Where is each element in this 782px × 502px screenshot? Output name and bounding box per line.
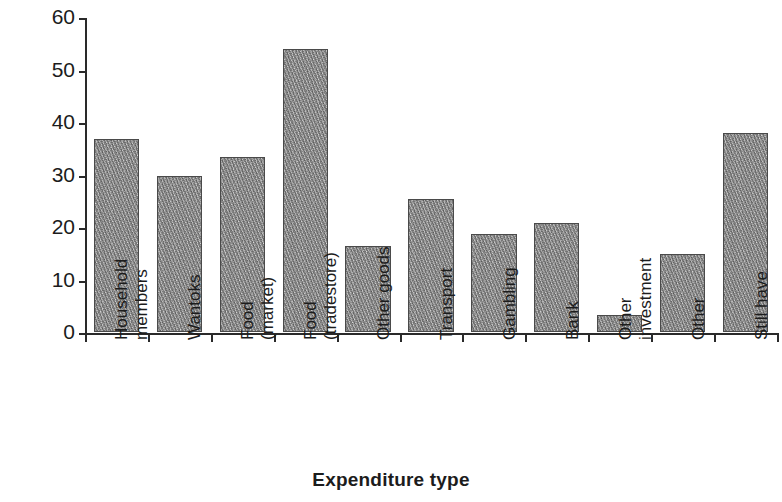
x-category-label: Other goods <box>374 190 394 340</box>
x-tick-mark <box>777 333 779 342</box>
x-category-label: Still have <box>752 190 772 340</box>
y-tick-label: 30 <box>52 163 75 187</box>
y-tick-mark <box>79 281 87 283</box>
y-tick-label: 50 <box>52 58 75 82</box>
x-tick-mark <box>714 333 716 342</box>
y-tick-mark <box>79 228 87 230</box>
y-tick-label: 40 <box>52 110 75 134</box>
bar-chart-figure: Per cent 0102030405060 Household members… <box>0 0 782 502</box>
x-category-label: Other investment <box>616 190 656 340</box>
x-tick-mark <box>462 333 464 342</box>
x-category-label: Bank <box>563 190 583 340</box>
x-axis-title: Expenditure type <box>0 469 782 491</box>
y-tick-label: 60 <box>52 5 75 29</box>
y-tick-label: 0 <box>63 320 75 344</box>
y-tick-mark <box>79 71 87 73</box>
x-tick-mark <box>85 333 87 342</box>
y-tick-mark <box>79 18 87 20</box>
y-tick-mark <box>79 176 87 178</box>
x-category-label: Other <box>689 190 709 340</box>
x-tick-mark <box>400 333 402 342</box>
x-category-label: Household members <box>112 190 152 340</box>
x-tick-mark <box>588 333 590 342</box>
y-tick-label: 20 <box>52 215 75 239</box>
x-category-label: Wantoks <box>185 190 205 340</box>
x-category-label: Gambling <box>500 190 520 340</box>
y-tick-label: 10 <box>52 268 75 292</box>
x-tick-mark <box>525 333 527 342</box>
x-category-label: Transport <box>437 190 457 340</box>
x-tick-mark <box>211 333 213 342</box>
x-category-label: Food (tradestore) <box>301 190 341 340</box>
x-category-label: Food (market) <box>238 190 278 340</box>
y-tick-mark <box>79 123 87 125</box>
